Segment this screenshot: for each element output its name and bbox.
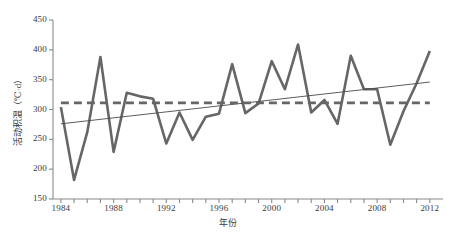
y-axis-tick-label-text: 350 <box>20 75 47 84</box>
x-axis-tick-label: 1992 <box>146 203 186 213</box>
x-axis-tick-label: 1984 <box>41 203 81 213</box>
y-axis-tick-label: 350 <box>20 75 47 84</box>
x-axis-tick-label: 2012 <box>410 203 450 213</box>
y-axis-tick-label-text: 250 <box>20 134 47 143</box>
y-axis-tick-label: 300 <box>20 105 47 114</box>
y-axis-tick-label: 150 <box>20 194 47 203</box>
y-axis-ticks <box>49 20 53 199</box>
y-axis-tick-label: 400 <box>20 45 47 54</box>
chart-figure: 150200250300350400450 198419881992199620… <box>0 0 455 246</box>
y-axis-tick-label-text: 300 <box>20 105 47 114</box>
y-axis-tick-label: 450 <box>20 15 47 24</box>
y-axis-tick-label: 250 <box>20 134 47 143</box>
x-axis-tick-label: 2008 <box>357 203 397 213</box>
x-axis-tick-label: 1996 <box>199 203 239 213</box>
y-axis-tick-label-text: 150 <box>20 194 47 203</box>
y-axis-tick-label-text: 200 <box>20 164 47 173</box>
y-axis-tick-label: 200 <box>20 164 47 173</box>
chart-series-line <box>61 44 430 179</box>
x-axis-tick-label: 1988 <box>94 203 134 213</box>
x-axis-title: 年份 <box>0 216 455 229</box>
x-axis-tick-label: 2004 <box>304 203 344 213</box>
y-axis-tick-label-text: 400 <box>20 45 47 54</box>
y-axis-title: 活动积温（℃·d） <box>11 46 24 176</box>
x-axis-tick-label: 2000 <box>252 203 292 213</box>
chart-series-group <box>61 44 430 179</box>
y-axis-tick-label-text: 450 <box>20 15 47 24</box>
